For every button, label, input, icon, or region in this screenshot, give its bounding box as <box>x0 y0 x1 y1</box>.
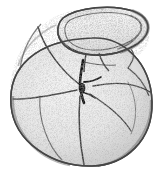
illustration-figure <box>0 0 166 177</box>
foraminifera-drawing <box>0 0 166 177</box>
